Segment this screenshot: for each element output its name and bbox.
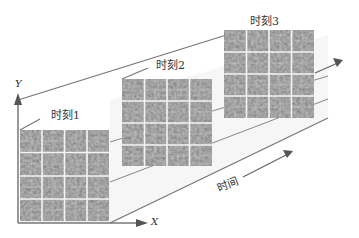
x-axis-arrow-icon	[136, 219, 148, 227]
frame-3-label: 时刻3	[250, 12, 279, 28]
time-arrow-upper-icon	[333, 58, 343, 67]
frame-1-label: 时刻1	[51, 106, 80, 122]
spatiotemporal-diagram: 时刻1 时刻2 时刻3 Y X 时间	[0, 0, 359, 238]
time-arrow-icon	[283, 150, 293, 158]
time-arrow-line	[243, 153, 290, 177]
frame-1-panel	[20, 130, 109, 221]
frame-2-leader	[122, 68, 148, 79]
frame-3-panel	[224, 30, 314, 118]
y-axis-label: Y	[15, 78, 22, 89]
frame-2-panel	[122, 79, 212, 166]
x-axis-label: X	[151, 216, 158, 227]
frame-1-leader	[20, 119, 40, 130]
frame-2-label: 时刻2	[156, 56, 185, 72]
